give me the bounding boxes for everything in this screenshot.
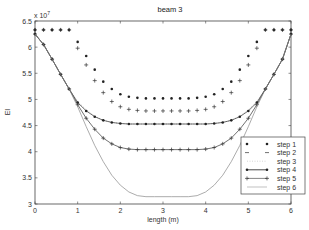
chart-title: beam 3 (157, 5, 182, 14)
legend-label: step 5 (277, 175, 296, 183)
legend-label: step 4 (277, 166, 296, 174)
y-tick-label: 3.5 (22, 174, 32, 181)
chart: 012345633.544.555.566.5 step 1step 2step… (0, 0, 309, 230)
y-axis-label: EI (4, 109, 11, 116)
legend-label: step 3 (277, 158, 296, 166)
x-tick-label: 2 (118, 207, 122, 214)
y-multiplier: x 107 (34, 10, 50, 19)
x-tick-label: 1 (76, 207, 80, 214)
y-tick-label: 3 (28, 201, 32, 208)
y-tick-label: 6 (28, 44, 32, 51)
series-step-5 (33, 32, 293, 152)
legend: step 1step 2step 3step 4step 5step 6 (241, 137, 305, 194)
x-axis-label: length (m) (147, 216, 179, 224)
x-tick-label: 0 (33, 207, 37, 214)
legend-label: step 6 (277, 184, 296, 192)
series-step-1 (34, 29, 293, 100)
legend-label: step 2 (277, 149, 296, 157)
y-tick-label: 6.5 (22, 18, 32, 25)
legend-label: step 1 (277, 141, 296, 149)
x-tick-label: 6 (289, 207, 293, 214)
y-tick-label: 5.5 (22, 70, 32, 77)
y-tick-label: 4 (28, 148, 32, 155)
series-step-2 (33, 28, 293, 113)
x-tick-label: 3 (161, 207, 165, 214)
x-tick-label: 4 (204, 207, 208, 214)
y-tick-label: 4.5 (22, 122, 32, 129)
x-tick-label: 5 (246, 207, 250, 214)
y-tick-label: 5 (28, 96, 32, 103)
